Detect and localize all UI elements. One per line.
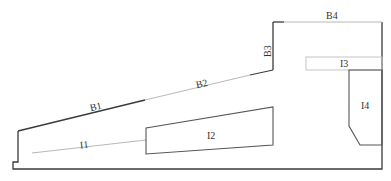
outer-boundary bbox=[13, 22, 382, 169]
label-b2: B2 bbox=[195, 77, 209, 90]
label-i1: I1 bbox=[79, 139, 88, 151]
label-i2: I2 bbox=[207, 130, 215, 141]
label-b4: B4 bbox=[326, 10, 338, 21]
label-i3: I3 bbox=[340, 58, 348, 69]
cross-section-diagram: B1 B2 B3 B4 I1 I2 I3 I4 bbox=[0, 0, 391, 181]
label-i4: I4 bbox=[361, 100, 369, 111]
edge-b1-b2 bbox=[18, 70, 273, 131]
label-b3: B3 bbox=[262, 45, 273, 57]
interface-i1 bbox=[32, 140, 146, 153]
